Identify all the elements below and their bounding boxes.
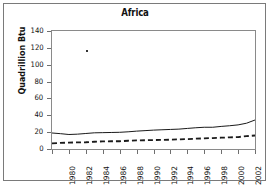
x-tick-label: 1982	[85, 166, 94, 186]
x-tick-mark	[69, 150, 70, 154]
series-line-production	[52, 120, 255, 134]
x-tick-label: 1994	[186, 166, 195, 186]
x-tick-label: 1980	[68, 166, 77, 186]
x-tick-mark	[120, 150, 121, 154]
x-tick-label: 2002	[254, 166, 263, 186]
x-tick-mark	[52, 150, 53, 154]
x-tick-mark	[86, 150, 87, 154]
x-tick-mark	[255, 150, 256, 154]
chart-figure: Africa Quadrillion Btu 02040608010012014…	[0, 0, 270, 186]
x-tick-mark	[103, 150, 104, 154]
x-tick-mark	[187, 150, 188, 154]
series-lines	[52, 31, 255, 149]
x-tick-label: 1992	[170, 166, 179, 186]
x-tick-mark	[154, 150, 155, 154]
x-tick-label: 1986	[119, 166, 128, 186]
x-tick-mark	[238, 150, 239, 154]
x-tick-label: 1990	[153, 166, 162, 186]
series-line-consumption	[52, 136, 255, 144]
x-tick-mark	[170, 150, 171, 154]
plot-area	[51, 30, 256, 150]
x-tick-mark	[221, 150, 222, 154]
x-tick-mark	[137, 150, 138, 154]
x-tick-label: 1984	[102, 166, 111, 186]
stray-speck-artifact	[86, 50, 88, 52]
x-tick-label: 2000	[237, 166, 246, 186]
x-tick-label: 1996	[203, 166, 212, 186]
x-tick-label: 1998	[220, 166, 229, 186]
x-tick-mark	[204, 150, 205, 154]
x-tick-label: 1988	[136, 166, 145, 186]
